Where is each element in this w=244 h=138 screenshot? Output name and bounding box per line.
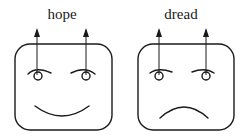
face-label-hope: hope (47, 6, 77, 22)
mouth-smile (35, 106, 89, 116)
face-outline (138, 44, 234, 130)
eye-left (34, 72, 42, 80)
face-hope: hope (15, 6, 112, 130)
face-outline (15, 44, 112, 130)
arrowhead-icon (203, 28, 209, 37)
arrowhead-icon (34, 28, 40, 37)
face-dread: dread (138, 6, 234, 130)
emotion-faces-diagram: hope dread (0, 0, 244, 138)
mouth-frown (160, 107, 208, 118)
arrowhead-icon (83, 28, 89, 37)
arrowhead-icon (156, 28, 162, 37)
face-label-dread: dread (164, 6, 198, 22)
